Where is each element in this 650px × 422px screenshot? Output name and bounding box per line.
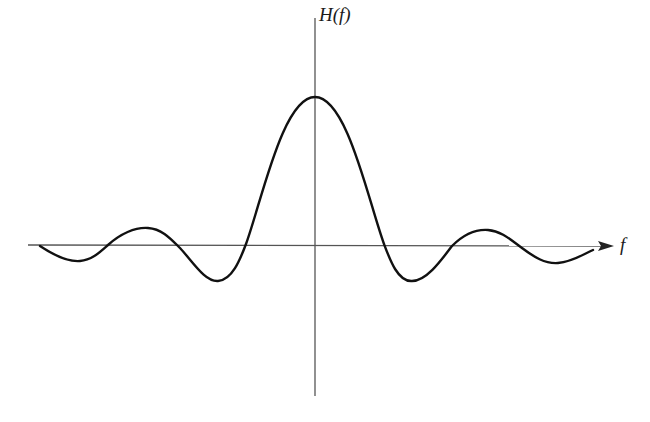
y-axis-label: H(f) xyxy=(319,4,351,26)
response-curve xyxy=(40,97,593,281)
x-axis-label: f xyxy=(620,234,625,256)
chart-canvas xyxy=(0,0,650,422)
